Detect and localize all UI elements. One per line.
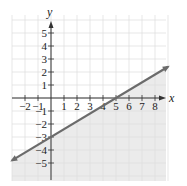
x-tick-label: 3	[87, 100, 93, 112]
x-tick-label: 1	[61, 100, 67, 112]
y-axis-arrow-icon	[49, 21, 54, 28]
x-tick-label: 5	[113, 100, 119, 112]
coordinate-plane: x y −2−11234567854321−1−2−3−4−5	[0, 0, 187, 186]
y-tick-label: 2	[42, 66, 48, 78]
y-tick-label: 3	[42, 53, 48, 65]
y-tick-label: 4	[42, 40, 48, 52]
y-tick-label: −2	[35, 118, 47, 130]
x-tick-label: −2	[19, 100, 31, 112]
y-tick-label: 5	[42, 27, 48, 39]
x-tick-label: 6	[126, 100, 132, 112]
x-axis-label: x	[168, 91, 175, 105]
y-tick-label: 1	[42, 79, 48, 91]
y-tick-label: −1	[35, 105, 47, 117]
x-tick-label: 7	[139, 100, 145, 112]
x-tick-label: 2	[74, 100, 80, 112]
y-axis-label: y	[46, 5, 53, 19]
y-tick-label: −5	[35, 157, 47, 169]
x-tick-label: 8	[152, 100, 158, 112]
